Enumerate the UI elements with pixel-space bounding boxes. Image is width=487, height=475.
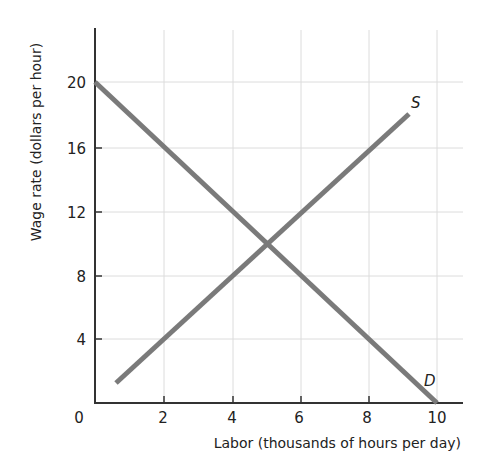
y-tick-label-20: 20	[67, 74, 86, 92]
origin-label: 0	[74, 409, 84, 427]
labor-market-chart: S D 20 16 12 8 4 0 2 4 6 8 10 Labor (tho…	[0, 0, 487, 475]
supply-curve	[116, 114, 409, 383]
x-tick-label-4: 4	[227, 409, 237, 427]
y-tick-label-4: 4	[76, 331, 86, 349]
grid	[95, 30, 463, 403]
x-tick-label-2: 2	[158, 409, 168, 427]
x-tick-label-6: 6	[294, 409, 304, 427]
axes	[94, 28, 463, 404]
x-axis-title: Labor (thousands of hours per day)	[214, 435, 461, 451]
y-tick-label-12: 12	[67, 204, 86, 222]
x-tick-label-10: 10	[427, 409, 446, 427]
y-tick-label-16: 16	[67, 140, 86, 158]
y-axis-title: Wage rate (dollars per hour)	[28, 43, 44, 241]
y-tick-labels: 20 16 12 8 4	[67, 74, 86, 349]
curves	[95, 82, 437, 403]
x-tick-label-8: 8	[362, 409, 372, 427]
y-tick-label-8: 8	[76, 268, 86, 286]
x-tick-labels: 2 4 6 8 10	[158, 409, 446, 427]
demand-curve-label: D	[424, 372, 436, 390]
supply-curve-label: S	[411, 94, 421, 112]
